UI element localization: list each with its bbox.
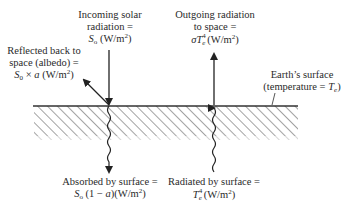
ground-hatch <box>34 106 298 140</box>
absorbed-line2: So (1 − a)(W/m2) <box>58 188 162 200</box>
reflected-line2: space (albedo) = <box>2 57 86 69</box>
outgoing-radiation-label: Outgoing radiation to space = σT4e(W/m2) <box>170 9 260 46</box>
reflected-line3: S0 × a (W/m2) <box>2 69 86 81</box>
reflected-radiation-label: Reflected back to space (albedo) = S0 × … <box>2 45 86 81</box>
radiated-label: Radiated by surface = T4e(W/m2) <box>166 176 262 201</box>
radiated-line1: Radiated by surface = <box>166 176 262 188</box>
incoming-line2: radiation = <box>70 21 150 33</box>
incoming-line1: Incoming solar <box>70 9 150 21</box>
reflected-radiation-arrow <box>84 80 109 105</box>
incoming-radiation-label: Incoming solar radiation = So (W/m2) <box>70 9 150 45</box>
outgoing-line3: σT4e(W/m2) <box>170 33 260 46</box>
surface-line1: Earth’s surface <box>262 69 342 81</box>
radiated-line2: T4e(W/m2) <box>166 188 262 201</box>
surface-label-leader <box>272 93 275 105</box>
incoming-line3: So (W/m2) <box>70 33 150 45</box>
reflected-line1: Reflected back to <box>2 45 86 57</box>
absorbed-line1: Absorbed by surface = <box>58 176 162 188</box>
outgoing-line2: to space = <box>170 21 260 33</box>
outgoing-line1: Outgoing radiation <box>170 9 260 21</box>
surface-line2: (temperature = Te) <box>262 81 342 93</box>
earth-surface-label: Earth’s surface (temperature = Te) <box>262 69 342 93</box>
absorbed-label: Absorbed by surface = So (1 − a)(W/m2) <box>58 176 162 200</box>
